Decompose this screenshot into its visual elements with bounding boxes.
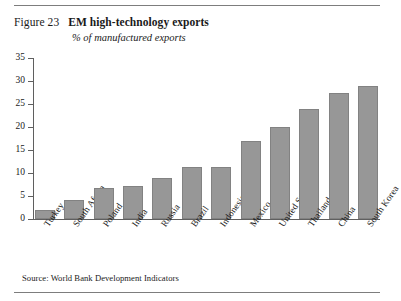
bar — [299, 109, 319, 219]
source-note: Source: World Bank Development Indicator… — [22, 273, 179, 283]
bar — [270, 127, 290, 219]
footer-rule — [14, 292, 380, 293]
bar — [329, 93, 349, 220]
bar — [358, 86, 378, 219]
